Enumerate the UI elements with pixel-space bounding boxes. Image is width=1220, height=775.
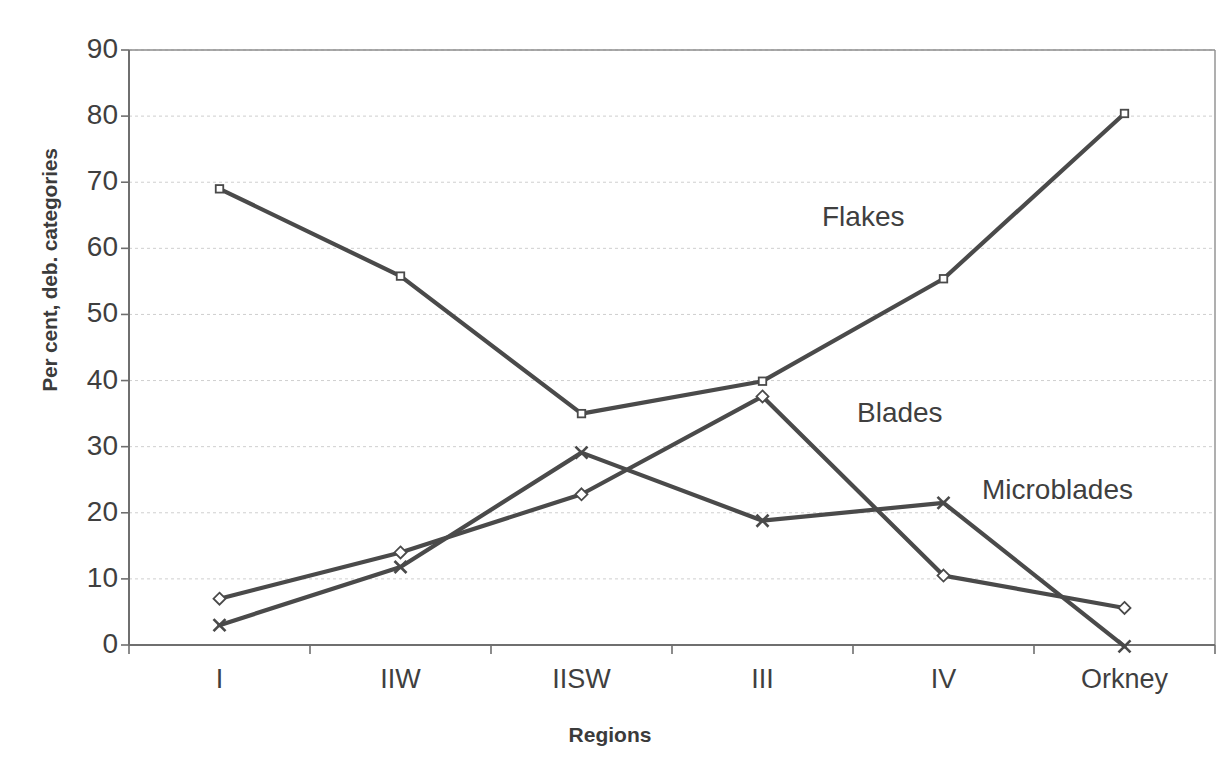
plot-area [0, 0, 1220, 775]
data-point-marker-square [759, 377, 767, 385]
series-flakes [216, 110, 1129, 418]
data-point-marker-diamond [1119, 602, 1131, 614]
data-point-marker-diamond [214, 593, 226, 605]
x-tick-label: Orkney [1025, 664, 1220, 694]
series-line [220, 113, 1125, 413]
data-point-marker-square [216, 185, 224, 193]
series-label-microblades: Microblades [982, 475, 1133, 505]
series-label-flakes: Flakes [822, 202, 904, 232]
data-point-marker-square [578, 410, 586, 418]
x-tick-label: IISW [482, 664, 682, 694]
x-tick-label: IV [844, 664, 1044, 694]
data-point-marker-square [940, 275, 948, 283]
x-axis-title: Regions [0, 723, 1220, 747]
data-point-marker-square [397, 272, 405, 280]
x-tick-label: I [120, 664, 320, 694]
data-point-marker-square [1121, 110, 1129, 118]
x-tick-label: III [663, 664, 863, 694]
series-label-blades: Blades [857, 398, 943, 428]
data-point-marker-diamond [395, 546, 407, 558]
line-chart: Per cent, deb. categories 90807060504030… [0, 0, 1220, 775]
x-tick-label: IIW [301, 664, 501, 694]
